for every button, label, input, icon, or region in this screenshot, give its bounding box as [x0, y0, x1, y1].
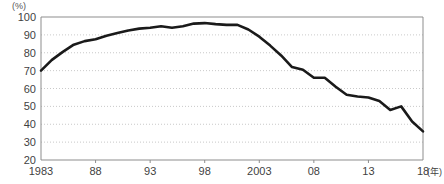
- y-axis-tick-label: 40: [24, 118, 36, 130]
- y-axis-tick-label: 80: [24, 47, 36, 59]
- y-axis-tick-label: 30: [24, 136, 36, 148]
- y-axis-tick-label: 90: [24, 29, 36, 41]
- x-axis-tick-label: 13: [362, 165, 374, 177]
- y-axis-tick-label: 70: [24, 65, 36, 77]
- gridlines: [41, 35, 423, 142]
- y-axis-tick-labels: 2030405060708090100: [18, 11, 36, 166]
- chart-canvas: 2030405060708090100 19838893982003081318…: [0, 0, 444, 184]
- line-chart: (%) 2030405060708090100 1983889398200308…: [0, 0, 444, 184]
- data-series-line: [41, 23, 423, 131]
- x-axis-tick-label: 98: [199, 165, 211, 177]
- series-line: [41, 23, 423, 131]
- x-axis-tick-label: 1983: [29, 165, 53, 177]
- x-axis-tick-label: 2003: [247, 165, 271, 177]
- y-axis-tick-label: 50: [24, 100, 36, 112]
- y-axis-tick-label: 100: [18, 11, 36, 23]
- x-axis-tick-label: 93: [144, 165, 156, 177]
- x-axis-unit-label: (年): [427, 166, 442, 177]
- x-axis-tick-label: 08: [308, 165, 320, 177]
- y-axis-tick-label: 60: [24, 83, 36, 95]
- x-axis-tick-labels: 19838893982003081318: [29, 165, 429, 177]
- x-axis-tick-label: 88: [89, 165, 101, 177]
